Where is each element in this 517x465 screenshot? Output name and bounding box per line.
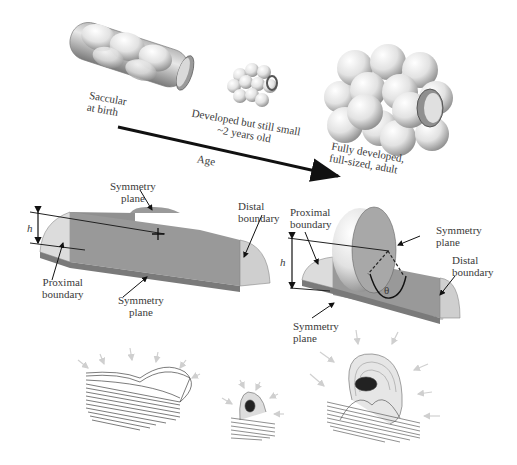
label-line: boundary xyxy=(238,212,280,224)
right-proximal-boundary: Proximal boundary xyxy=(290,206,332,230)
left-distal-boundary: Distal boundary xyxy=(238,200,280,224)
label-line: Symmetry xyxy=(436,224,482,236)
large-alveolar-cluster xyxy=(324,44,453,156)
small-alveolar-cluster xyxy=(227,63,277,107)
flow-streamlines-adult xyxy=(327,354,420,442)
label-line: Symmetry xyxy=(293,320,339,332)
left-symmetry-plane-top: Symmetry plane xyxy=(110,180,156,204)
label-line: plane xyxy=(436,236,482,248)
label-line: Proximal xyxy=(42,276,84,288)
right-angle-symbol: θ xyxy=(384,284,389,296)
label-line: Proximal xyxy=(290,206,332,218)
right-height-symbol: h xyxy=(280,256,286,268)
left-proximal-boundary: Proximal boundary xyxy=(42,276,84,300)
label-line: plane xyxy=(118,306,164,318)
label-line: Symmetry xyxy=(110,180,156,192)
label-line: Distal xyxy=(452,254,494,266)
flow-streamlines-saccular xyxy=(86,367,191,430)
right-symmetry-plane-side: Symmetry plane xyxy=(436,224,482,248)
label-line: boundary xyxy=(290,218,332,230)
label-line: Distal xyxy=(238,200,280,212)
left-height-symbol: h xyxy=(27,222,33,234)
label-line: plane xyxy=(293,332,339,344)
left-symmetry-plane-bottom: Symmetry plane xyxy=(118,294,164,318)
label-line: boundary xyxy=(452,266,494,278)
label-line: plane xyxy=(110,192,156,204)
right-distal-boundary: Distal boundary xyxy=(452,254,494,278)
flow-streamlines-small xyxy=(231,392,275,440)
saccular-airway-model xyxy=(65,16,199,95)
label-line: boundary xyxy=(42,288,84,300)
right-symmetry-plane-bottom: Symmetry plane xyxy=(293,320,339,344)
label-line: Symmetry xyxy=(118,294,164,306)
